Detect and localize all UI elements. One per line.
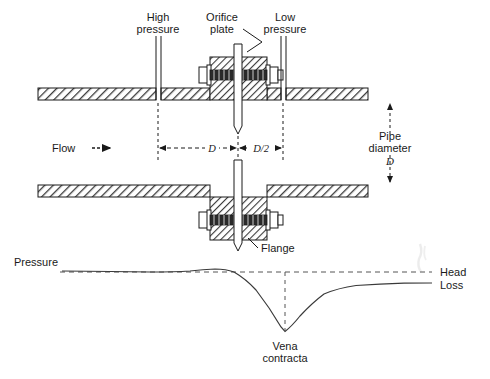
vena-contracta-label-line2: contracta <box>262 352 308 364</box>
vena-contracta-label-line1: Vena <box>272 340 298 352</box>
orifice-plate-upper <box>234 44 242 134</box>
head-loss-label-line1: Head <box>440 266 466 278</box>
dimension-d: D <box>160 141 236 155</box>
orifice-plate-label-line2: plate <box>210 23 234 35</box>
dimension-d-half: D/2 <box>240 141 281 155</box>
dimension-d-half-label: D/2 <box>252 143 270 154</box>
dimension-d-label: D <box>207 143 216 154</box>
orifice-plate-diagram: D D/2 Flow Pipe diameter D High pressure… <box>0 0 490 379</box>
orifice-plate-leader-line <box>243 29 262 42</box>
upper-pipe-wall <box>38 88 368 100</box>
orifice-plate-label-line1: Orifice <box>206 11 238 23</box>
flange-label-text: Flange <box>261 242 295 254</box>
lower-pipe-wall <box>38 185 368 197</box>
orifice-plate-lower <box>234 160 242 251</box>
low-pressure-label: Low pressure <box>264 11 307 35</box>
pressure-curve <box>62 269 432 332</box>
pressure-profile-chart: Pressure Vena contracta Head Loss <box>14 244 466 364</box>
figure-root: D D/2 Flow Pipe diameter D High pressure… <box>0 0 490 379</box>
flow-label: Flow <box>52 142 75 154</box>
pressure-axis-label: Pressure <box>14 256 58 268</box>
pipe-diameter-symbol: D <box>385 155 394 167</box>
head-loss-label-line2: Loss <box>440 279 464 291</box>
high-pressure-label-line1: High <box>147 11 170 23</box>
pipe-diameter-indicator: Pipe diameter D <box>369 104 412 182</box>
scan-artifact <box>418 244 426 272</box>
high-pressure-tap <box>156 36 161 100</box>
pipe-diameter-label-line1: Pipe <box>379 130 401 142</box>
low-pressure-label-line1: Low <box>275 11 295 23</box>
low-pressure-label-line2: pressure <box>264 23 307 35</box>
high-pressure-label: High pressure <box>137 11 180 35</box>
flow-indicator: Flow <box>52 142 110 154</box>
low-pressure-tap <box>281 36 286 100</box>
high-pressure-label-line2: pressure <box>137 23 180 35</box>
pipe-diameter-label-line2: diameter <box>369 142 412 154</box>
